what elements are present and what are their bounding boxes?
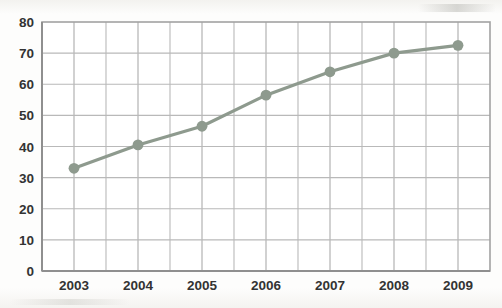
data-point-2005 [197, 121, 208, 132]
y-tick-label: 40 [19, 140, 34, 155]
y-tick-label: 50 [19, 108, 34, 123]
data-point-2006 [261, 90, 272, 101]
x-tick-label: 2007 [315, 278, 345, 293]
x-axis-tick-labels: 2003200420052006200720082009 [59, 278, 473, 293]
chart-plot-svg: 01020304050607080 2003200420052006200720… [0, 0, 502, 308]
y-tick-label: 30 [19, 171, 34, 186]
y-tick-label: 60 [19, 77, 34, 92]
data-point-2007 [325, 66, 336, 77]
data-point-2004 [133, 140, 144, 151]
y-tick-label: 10 [19, 233, 34, 248]
line-chart: 01020304050607080 2003200420052006200720… [0, 0, 502, 308]
x-tick-label: 2004 [123, 278, 154, 293]
y-tick-label: 0 [26, 264, 34, 279]
y-axis-tick-labels: 01020304050607080 [19, 15, 34, 279]
data-point-2003 [69, 163, 80, 174]
x-tick-label: 2005 [187, 278, 218, 293]
y-tick-label: 80 [19, 15, 34, 30]
x-tick-label: 2008 [379, 278, 410, 293]
y-tick-label: 70 [19, 46, 34, 61]
x-tick-label: 2006 [251, 278, 282, 293]
data-point-2009 [453, 40, 464, 51]
x-tick-label: 2003 [59, 278, 90, 293]
x-tick-label: 2009 [443, 278, 473, 293]
y-tick-label: 20 [19, 202, 34, 217]
data-point-2008 [389, 48, 400, 59]
